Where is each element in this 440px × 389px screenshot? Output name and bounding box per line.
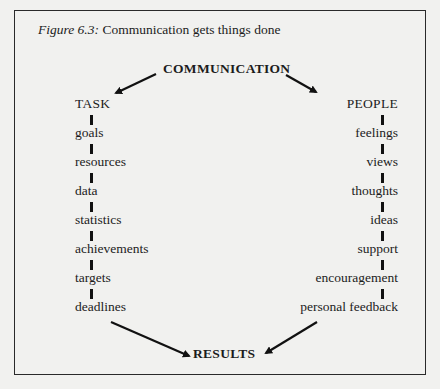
arrow-deadlines-to-results bbox=[111, 322, 189, 356]
arrow-communication-to-task bbox=[116, 74, 156, 93]
arrows-layer bbox=[0, 0, 440, 389]
arrow-feedback-to-results bbox=[266, 322, 317, 353]
arrow-communication-to-people bbox=[286, 75, 316, 92]
